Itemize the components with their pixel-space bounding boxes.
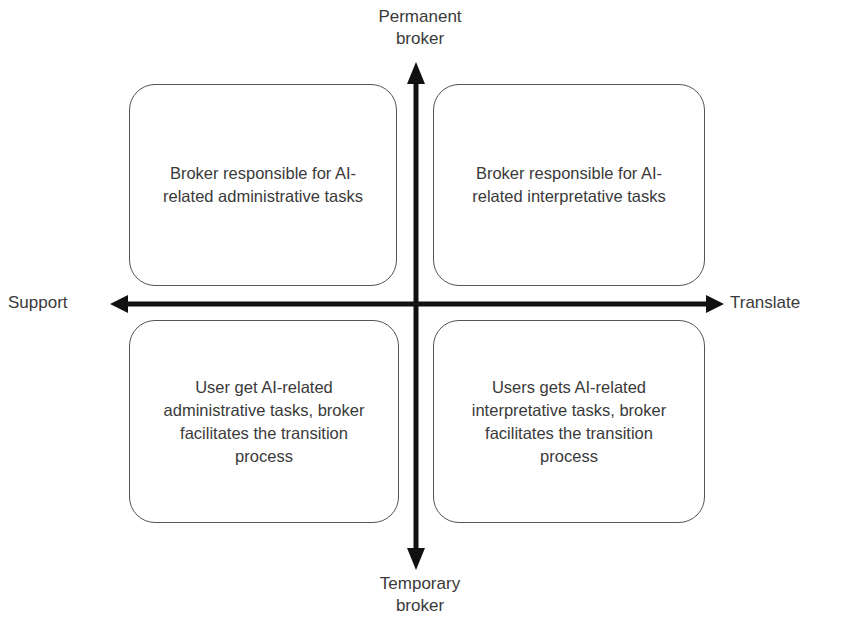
vertical-axis-arrow: [407, 62, 425, 570]
axes: [0, 0, 843, 628]
arrow-left-icon: [110, 295, 128, 313]
arrow-right-icon: [706, 295, 724, 313]
arrow-up-icon: [407, 62, 425, 84]
arrow-down-icon: [407, 548, 425, 570]
